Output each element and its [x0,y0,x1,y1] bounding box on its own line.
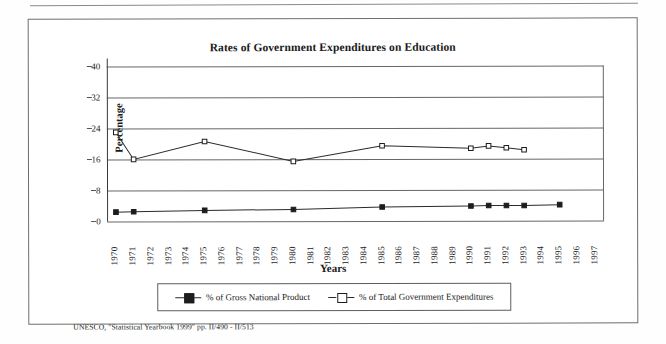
data-point-marker [131,209,136,214]
y-axis-tick-label: 24 [91,123,105,133]
data-point-marker [469,146,474,151]
series-plot [107,65,604,221]
chart-page: Rates of Government Expenditures on Educ… [0,0,666,344]
data-point-marker [114,210,119,215]
y-axis-tick-label: 32 [91,92,105,102]
data-point-marker [504,145,509,150]
y-axis-tick-label: 16 [91,154,105,164]
legend-label-total-gov-exp: % of Total Government Expenditures [359,292,494,302]
data-point-marker [557,202,562,207]
filled-square-marker-icon [175,292,201,302]
data-point-marker [469,204,474,209]
data-point-marker [522,203,527,208]
x-axis-title: Years [29,261,637,274]
data-point-marker [380,143,385,148]
series-line-0 [116,205,560,213]
y-axis-tick-label: 0 [96,216,106,226]
plot-area: Percentage 0816243240 [107,65,604,221]
source-note: UNESCO, "Statistical Yearbook 1999" pp. … [73,322,253,331]
data-point-marker [522,147,527,152]
top-divider-rule [30,3,638,6]
data-point-marker [113,130,118,135]
data-point-marker [291,159,296,164]
y-axis-tick-label: 8 [96,185,106,195]
data-point-marker [486,144,491,149]
data-point-marker [380,205,385,210]
data-point-marker [131,157,136,162]
chart-title: Rates of Government Expenditures on Educ… [29,40,637,53]
legend-label-gnp: % of Gross National Product [206,292,310,302]
open-square-marker-icon [328,292,354,302]
x-axis-ticks: 1970197119721973197419751976197719781979… [107,222,604,265]
chart-legend: % of Gross National Product % of Total G… [157,283,511,312]
data-point-marker [202,208,207,213]
data-point-marker [504,203,509,208]
data-point-marker [486,203,491,208]
y-axis-tick-label: 40 [91,61,105,71]
chart-outer-frame: Rates of Government Expenditures on Educ… [28,17,639,324]
data-point-marker [202,139,207,144]
legend-item-gnp: % of Gross National Product [175,292,310,302]
legend-item-total-gov-exp: % of Total Government Expenditures [328,292,494,302]
data-point-marker [291,207,296,212]
series-line-1 [116,131,524,161]
